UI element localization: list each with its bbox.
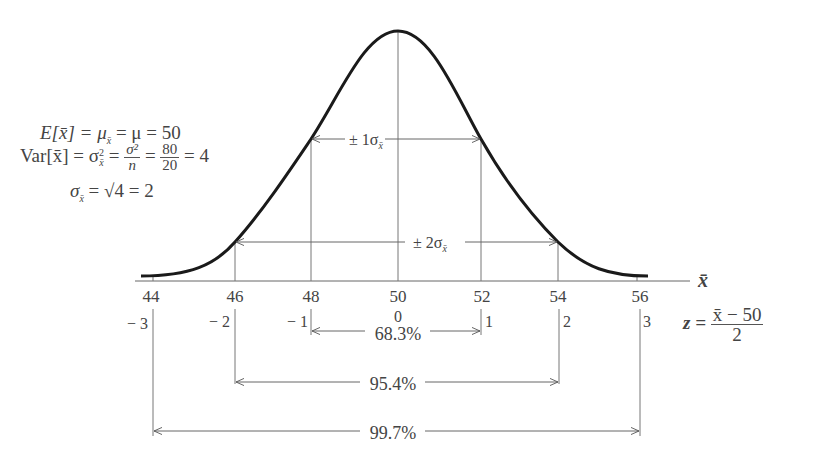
- x-bar-axis-label: x̄: [697, 269, 708, 291]
- pct95-label: 95.4%: [370, 374, 417, 394]
- z-tick-minus-2: − 2: [209, 313, 230, 330]
- two-sigma-label: ± 2σx̄: [413, 234, 447, 254]
- z-tick-minus-3: − 3: [127, 315, 148, 332]
- z-tick-0: 0: [394, 308, 402, 325]
- z-tick-2: 2: [563, 313, 571, 330]
- normal-curve: [141, 31, 648, 276]
- normal-curve-diagram: ± 1σx̄ ± 2σx̄ x̄ 44 46 48 50 52 54 56 − …: [0, 0, 814, 465]
- x-tick-54: 54: [550, 287, 568, 306]
- pct99-label: 99.7%: [370, 423, 417, 443]
- z-tick-minus-1: − 1: [287, 313, 308, 330]
- std-dev-formula: σx̄ = √4 = 2: [70, 180, 154, 204]
- x-tick-labels: 44 46 48 50 52 54 56: [143, 287, 649, 306]
- x-tick-50: 50: [390, 287, 407, 306]
- pct68-label: 68.3%: [375, 324, 422, 344]
- z-tick-3: 3: [643, 313, 651, 330]
- x-tick-56: 56: [632, 287, 649, 306]
- x-tick-48: 48: [303, 287, 320, 306]
- z-tick-1: 1: [485, 313, 493, 330]
- z-formula: z = x̄ − 502: [683, 305, 763, 344]
- one-sigma-label: ± 1σx̄: [349, 131, 383, 151]
- x-tick-46: 46: [227, 287, 244, 306]
- x-tick-44: 44: [143, 287, 161, 306]
- x-tick-52: 52: [474, 287, 491, 306]
- variance-formula: Var[x̄] = σ2x̄ = σ²n = 8020 = 4: [20, 142, 209, 173]
